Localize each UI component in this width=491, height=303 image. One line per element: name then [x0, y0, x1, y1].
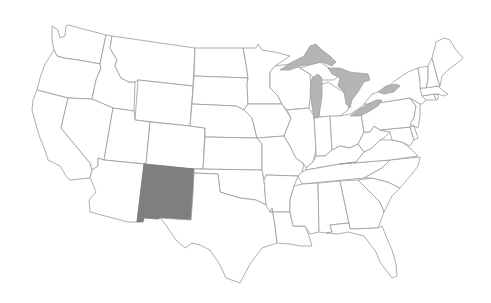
us-map: United States	[0, 0, 491, 303]
state-arizona[interactable]	[89, 158, 144, 222]
state-indiana[interactable]	[314, 116, 332, 156]
state-kansas[interactable]	[203, 137, 262, 170]
state-mississippi[interactable]	[290, 183, 319, 234]
state-colorado[interactable]	[144, 122, 205, 169]
state-montana[interactable]	[110, 36, 195, 86]
state-north-dakota[interactable]	[194, 48, 248, 78]
states	[32, 25, 463, 283]
state-wyoming[interactable]	[135, 80, 193, 126]
state-new-mexico[interactable]	[137, 164, 194, 222]
state-florida[interactable]	[326, 223, 397, 278]
